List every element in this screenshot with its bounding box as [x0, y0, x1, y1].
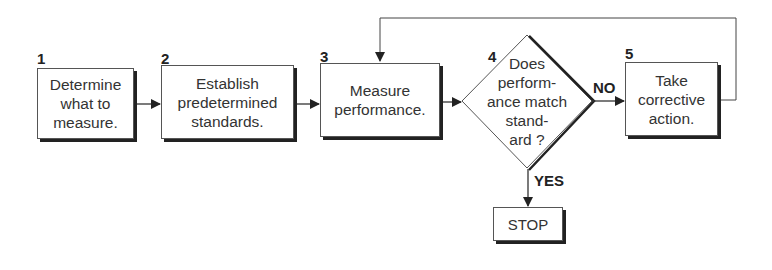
- decision-line: stand-: [477, 111, 577, 130]
- step-1-line: what to: [50, 94, 122, 113]
- step-box-5: Take corrective action.: [625, 62, 718, 136]
- step-5-line: corrective: [638, 90, 705, 109]
- step-2-line: Establish: [178, 74, 278, 93]
- step-2-line: standards.: [178, 112, 278, 131]
- decision-line: ard ?: [477, 130, 577, 149]
- yes-label: YES: [534, 172, 564, 189]
- step-2-line: predetermined: [178, 93, 278, 112]
- decision-line: Does: [477, 54, 577, 73]
- step-1-line: Determine: [50, 75, 122, 94]
- decision-line: perform-: [477, 73, 577, 92]
- step-number-1: 1: [37, 50, 45, 67]
- step-5-line: Take: [638, 71, 705, 90]
- step-box-3: Measure performance.: [320, 63, 440, 137]
- stop-box: STOP: [493, 207, 563, 241]
- stop-label: STOP: [508, 215, 549, 234]
- step-number-5: 5: [625, 45, 633, 62]
- step-3-line: Measure: [334, 81, 425, 100]
- decision-line: ance match: [477, 92, 577, 111]
- step-5-line: action.: [638, 109, 705, 128]
- no-label: NO: [593, 79, 616, 96]
- step-1-line: measure.: [50, 113, 122, 132]
- step-3-line: performance.: [334, 100, 425, 119]
- step-box-1: Determine what to measure.: [37, 68, 134, 139]
- decision-text: Does perform- ance match stand- ard ?: [477, 54, 577, 149]
- step-box-2: Establish predetermined standards.: [161, 65, 294, 139]
